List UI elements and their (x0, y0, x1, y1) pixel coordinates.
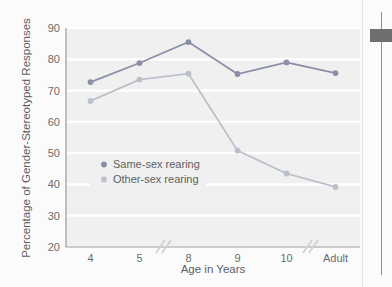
data-point[interactable] (333, 70, 339, 76)
legend-label: Same-sex rearing (113, 158, 200, 170)
y-tick-label: 70 (48, 85, 60, 97)
plot-background (66, 28, 360, 247)
data-point[interactable] (88, 79, 94, 85)
y-axis-tick-labels: 2030405060708090 (48, 22, 60, 253)
data-point[interactable] (186, 71, 192, 77)
x-tick-label: Adult (323, 252, 348, 264)
chart-legend: Same-sex rearingOther-sex rearing (90, 155, 206, 187)
x-tick-label: 5 (136, 252, 142, 264)
data-point[interactable] (137, 77, 143, 83)
x-axis-title: Age in Years (181, 263, 246, 275)
y-tick-label: 30 (48, 210, 60, 222)
y-tick-label: 50 (48, 147, 60, 159)
legend-label: Other-sex rearing (113, 173, 199, 185)
figure-container: 2030405060708090 458910Adult Age in Year… (0, 0, 392, 287)
scrollbar-track[interactable] (381, 12, 382, 275)
y-tick-label: 20 (48, 241, 60, 253)
y-tick-label: 80 (48, 53, 60, 65)
data-point[interactable] (88, 98, 94, 104)
scrollbar-thumb[interactable] (370, 29, 392, 42)
x-tick-label: 10 (280, 252, 292, 264)
panel-divider (362, 0, 363, 287)
y-tick-label: 40 (48, 178, 60, 190)
data-point[interactable] (186, 39, 192, 45)
data-point[interactable] (284, 60, 290, 66)
data-point[interactable] (137, 60, 143, 66)
line-chart: 2030405060708090 458910Adult Age in Year… (0, 0, 392, 287)
data-point[interactable] (235, 148, 241, 154)
y-tick-label: 60 (48, 116, 60, 128)
y-tick-label: 90 (48, 22, 60, 34)
x-tick-label: 4 (87, 252, 93, 264)
legend-marker (101, 177, 107, 183)
data-point[interactable] (284, 171, 290, 177)
legend-marker (101, 162, 107, 168)
data-point[interactable] (333, 184, 339, 190)
data-point[interactable] (235, 71, 241, 77)
y-axis-title: Percentage of Gender-Stereotyped Respons… (20, 18, 32, 258)
